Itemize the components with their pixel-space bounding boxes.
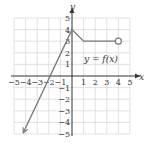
y-tick-label: 2	[65, 49, 70, 58]
y-tick-label: −1	[58, 84, 70, 93]
x-tick-label: 5	[127, 78, 132, 87]
y-tick-label: −4	[58, 118, 70, 127]
x-tick-label: 1	[81, 78, 86, 87]
function-graph: −5−4−3−2−11234554321−1−2−3−4−5 y = f(x) …	[0, 0, 146, 149]
x-tick-label: 4	[116, 78, 121, 87]
y-tick-label: −3	[58, 107, 70, 116]
y-tick-label: 1	[65, 60, 70, 69]
y-tick-label: −5	[58, 130, 70, 139]
x-tick-label: −4	[20, 78, 32, 87]
x-tick-label: 2	[93, 78, 98, 87]
x-tick-label: −3	[31, 78, 43, 87]
open-circle-icon	[115, 38, 121, 44]
y-tick-label: −2	[58, 95, 70, 104]
y-axis-label: y	[69, 2, 76, 12]
y-tick-label: 4	[65, 26, 70, 35]
function-label: y = f(x)	[83, 54, 118, 64]
x-tick-label: 3	[104, 78, 109, 87]
x-tick-label: −5	[8, 78, 20, 87]
y-tick-label: 5	[65, 14, 70, 23]
x-axis-label: x	[139, 72, 144, 82]
